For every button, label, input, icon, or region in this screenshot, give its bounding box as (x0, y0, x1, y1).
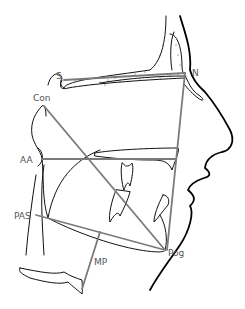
label-pog: Pog (168, 248, 184, 258)
label-aa: AA (20, 155, 33, 165)
teeth (109, 163, 168, 222)
cranial-base (48, 16, 203, 100)
label-pas: PAS (14, 211, 31, 221)
label-s: S (56, 71, 62, 81)
mandible (26, 105, 166, 255)
label-con: Con (33, 93, 51, 103)
label-mp: MP (94, 257, 108, 267)
cephalometric-diagram: S N Con AA PAS MP Pog (0, 0, 245, 309)
hyoid (19, 268, 82, 294)
reference-lines (36, 73, 185, 289)
label-n: N (192, 68, 199, 78)
